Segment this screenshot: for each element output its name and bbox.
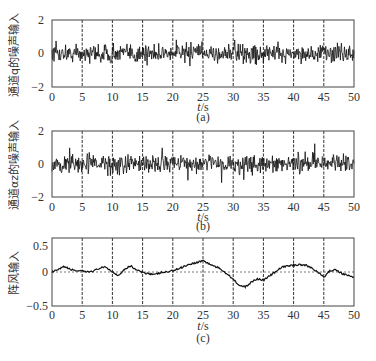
y-tick-c-top: 0.5 — [18, 239, 48, 254]
x-tick-label: 30 — [227, 308, 239, 323]
x-tick-label: 15 — [137, 308, 149, 323]
x-tick-label: 0 — [49, 308, 55, 323]
vertical-grid-c — [82, 238, 324, 306]
x-tick-label: 20 — [167, 308, 179, 323]
x-tick-label: 40 — [288, 308, 300, 323]
x-tick-label: 45 — [318, 308, 330, 323]
panel-c: 阵风输入 0.5 0 −0.5 05101520253035404550 t/s… — [0, 0, 376, 361]
caption-c: (c) — [196, 331, 209, 346]
x-tick-label: 10 — [106, 308, 118, 323]
x-tick-label: 5 — [79, 308, 85, 323]
plot-area-c — [0, 0, 376, 361]
x-tick-label: 50 — [348, 308, 360, 323]
x-tick-label: 35 — [257, 308, 269, 323]
y-tick-c-bot: −0.5 — [18, 299, 48, 314]
y-tick-c-mid: 0 — [18, 265, 48, 280]
